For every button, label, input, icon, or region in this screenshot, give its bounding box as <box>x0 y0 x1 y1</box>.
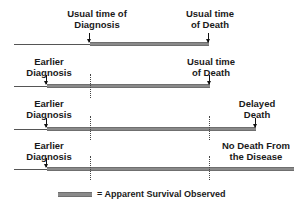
legend-swatch <box>58 192 92 197</box>
row4-end-label-line1: No Death From <box>215 140 297 151</box>
row3-start-label-line1: Earlier <box>18 98 80 109</box>
row3-end-label: Delayed Death <box>234 98 280 120</box>
row2-start-label: Earlier Diagnosis <box>18 56 80 78</box>
row4-diagnosis-arrow-icon <box>46 158 47 167</box>
usual-death-reference-line <box>209 116 210 140</box>
row3-start-label-line2: Diagnosis <box>18 109 80 120</box>
row1-end-label-line2: of Death <box>180 19 240 30</box>
row1-timeline <box>14 44 90 45</box>
row3-diagnosis-arrow-icon <box>46 118 47 127</box>
row4-survival-bar <box>47 167 294 171</box>
row3-death-arrow-icon <box>255 118 256 127</box>
row1-end-label: Usual time of Death <box>180 8 240 30</box>
row4-start-label-line2: Diagnosis <box>18 151 80 162</box>
row1-survival-bar <box>90 42 209 46</box>
row4-end-label-line2: the Disease <box>215 151 297 162</box>
row2-timeline <box>14 86 47 87</box>
row2-start-label-line2: Diagnosis <box>18 67 80 78</box>
row3-timeline <box>14 129 47 130</box>
usual-diagnosis-reference-line <box>90 116 91 140</box>
row4-start-label-line1: Earlier <box>18 140 80 151</box>
usual-diagnosis-reference-line <box>90 74 91 98</box>
row1-diagnosis-arrow-icon <box>89 33 90 42</box>
row2-survival-bar <box>47 84 210 88</box>
usual-diagnosis-reference-line <box>90 156 91 180</box>
row1-end-label-line1: Usual time <box>180 8 240 19</box>
row1-start-label-line1: Usual time of <box>62 8 132 19</box>
row2-start-label-line1: Earlier <box>18 56 80 67</box>
row4-timeline <box>14 169 47 170</box>
row3-start-label: Earlier Diagnosis <box>18 98 80 120</box>
row4-start-label: Earlier Diagnosis <box>18 140 80 162</box>
row2-end-label-line2: of Death <box>181 67 241 78</box>
row3-end-label-line1: Delayed <box>234 98 280 109</box>
row2-end-label: Usual time of Death <box>181 56 241 78</box>
row4-end-label: No Death From the Disease <box>215 140 297 162</box>
row3-end-label-line2: Death <box>234 109 280 120</box>
row1-death-arrow-icon <box>208 33 209 42</box>
row3-survival-bar <box>47 127 256 131</box>
row1-start-label: Usual time of Diagnosis <box>62 8 132 30</box>
legend-text: = Apparent Survival Observed <box>97 189 225 199</box>
row2-diagnosis-arrow-icon <box>46 75 47 84</box>
usual-death-reference-line <box>209 156 210 180</box>
row2-end-label-line1: Usual time <box>181 56 241 67</box>
row2-death-arrow-icon <box>209 75 210 84</box>
row1-start-label-line2: Diagnosis <box>62 19 132 30</box>
